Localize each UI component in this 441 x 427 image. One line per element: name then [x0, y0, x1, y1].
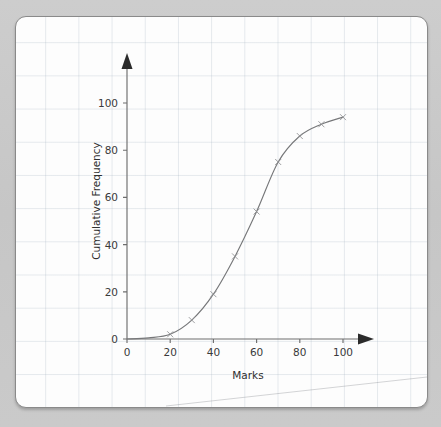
x-tick-label-60: 60 — [250, 346, 263, 358]
x-axis-ticks — [127, 339, 343, 343]
y-axis-title: Cumulative Frequency — [90, 142, 102, 260]
data-point-marker — [318, 121, 324, 127]
x-tick-label-20: 20 — [164, 346, 177, 358]
stray-pencil-line — [166, 377, 427, 406]
data-point-marker — [167, 331, 173, 337]
data-point-marker — [340, 114, 346, 120]
worksheet-card: 0 20 40 60 80 100 0 20 40 60 80 100 Mark… — [15, 16, 428, 408]
x-tick-label-100: 100 — [333, 346, 353, 358]
data-point-marker — [297, 133, 303, 139]
y-tick-label-40: 40 — [105, 239, 118, 251]
y-axis-ticks — [123, 103, 127, 339]
x-axis-title: Marks — [232, 369, 263, 381]
y-tick-label-80: 80 — [105, 144, 118, 156]
y-tick-label-20: 20 — [105, 286, 118, 298]
data-point-marker — [254, 209, 260, 215]
x-tick-label-40: 40 — [207, 346, 220, 358]
data-point-marker — [275, 159, 281, 165]
y-tick-label-0: 0 — [111, 333, 118, 345]
x-tick-label-80: 80 — [293, 346, 306, 358]
cumulative-frequency-chart: 0 20 40 60 80 100 0 20 40 60 80 100 Mark… — [16, 17, 427, 407]
data-point-marker — [189, 317, 195, 323]
x-axis-arrow-icon — [358, 334, 374, 345]
data-point-marker — [210, 291, 216, 297]
data-point-markers — [167, 114, 346, 337]
ogive-curve-smooth — [127, 117, 343, 339]
y-tick-label-100: 100 — [98, 97, 118, 109]
data-point-marker — [232, 253, 238, 259]
x-tick-label-0: 0 — [124, 346, 131, 358]
y-tick-label-60: 60 — [105, 191, 118, 203]
y-axis-arrow-icon — [122, 53, 133, 69]
